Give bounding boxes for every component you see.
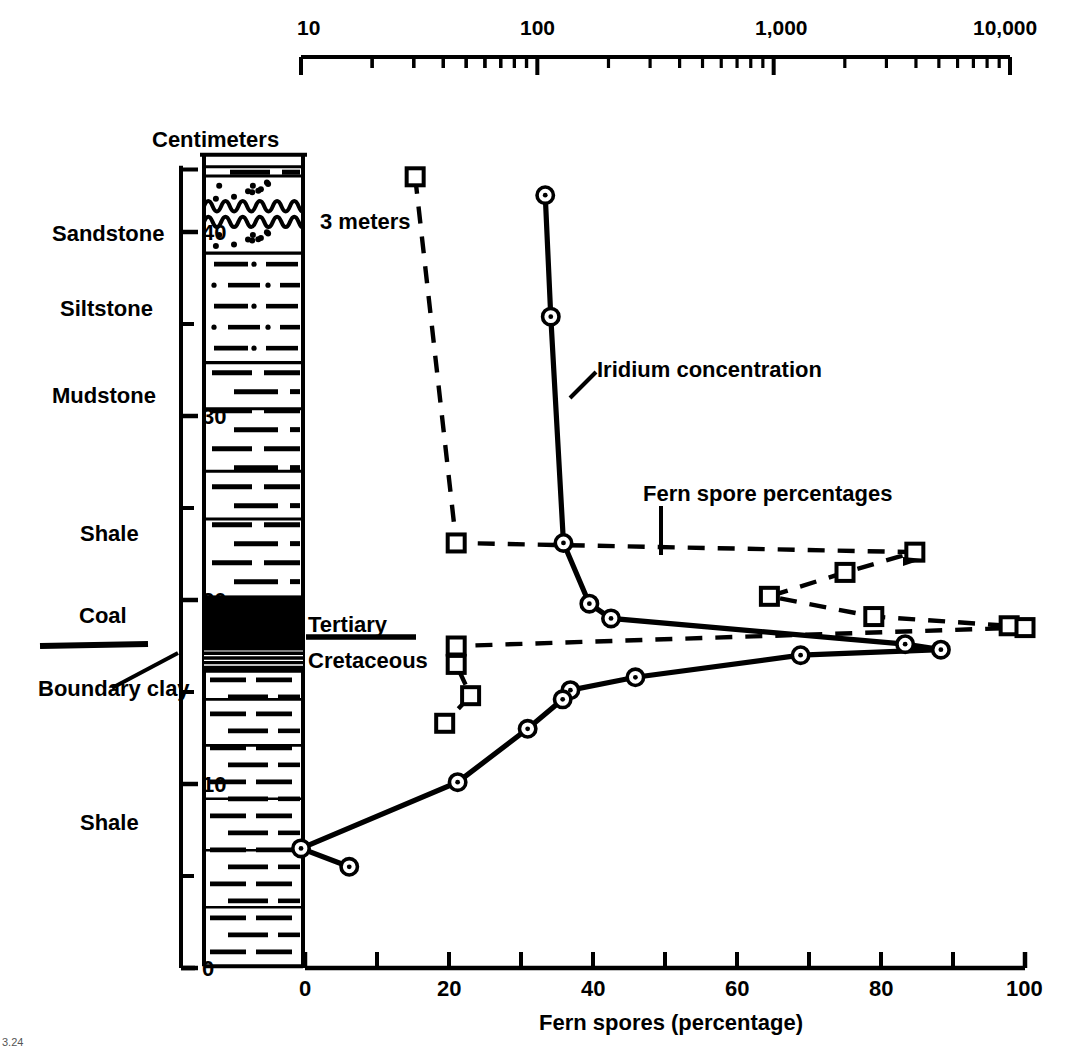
bottom-axis-tick-label-80: 80 [869, 976, 893, 1002]
bottom-axis-tick-label-20: 20 [437, 976, 461, 1002]
bottom-axis-tick-label-0: 0 [299, 976, 311, 1002]
bottom-axis-title: Fern spores (percentage) [539, 1010, 803, 1036]
figure-corner-number: 3.24 [2, 1036, 23, 1048]
bottom-axis-svg [0, 0, 1091, 1053]
bottom-axis-tick-label-100: 100 [1006, 976, 1043, 1002]
bottom-axis-tick-label-40: 40 [581, 976, 605, 1002]
figure-root: 10 100 1,000 10,000 010203040 Centimeter… [0, 0, 1091, 1053]
bottom-axis-tick-label-60: 60 [725, 976, 749, 1002]
